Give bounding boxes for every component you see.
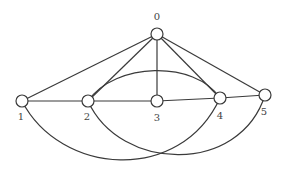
node-label-1: 1: [18, 111, 24, 122]
node-2: [82, 95, 94, 107]
edge-0-2: [88, 34, 157, 101]
edge-4-5: [220, 95, 265, 98]
edge-0-4: [157, 34, 220, 98]
edge-0-1: [22, 34, 157, 101]
node-label-2: 2: [84, 111, 90, 122]
node-label-0: 0: [154, 11, 160, 22]
node-1: [16, 95, 28, 107]
node-label-3: 3: [154, 112, 160, 123]
node-0: [151, 28, 163, 40]
edge-0-5: [157, 34, 265, 95]
graph-diagram: 0 1 2 3 4 5: [0, 0, 285, 178]
node-3: [151, 95, 163, 107]
edge-arc-1-4: [22, 98, 220, 160]
node-label-4: 4: [217, 110, 223, 121]
node-5: [259, 89, 271, 101]
edge-3-4: [157, 98, 220, 101]
node-4: [214, 92, 226, 104]
node-label-5: 5: [261, 106, 267, 117]
